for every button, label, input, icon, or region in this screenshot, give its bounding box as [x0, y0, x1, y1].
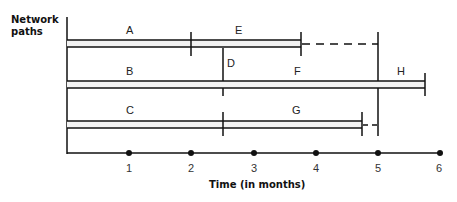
tick-label-1: 1: [126, 162, 132, 174]
tick-label-5: 5: [375, 162, 381, 174]
tick-label-2: 2: [188, 162, 194, 174]
activity-label-e: E: [235, 24, 242, 36]
y-axis-label-line1: Network: [11, 14, 59, 25]
activity-label-g: G: [292, 104, 301, 116]
path-3: [67, 112, 378, 136]
y-axis-label-line2: paths: [11, 26, 43, 37]
network-diagram: Network paths 1 2 3 4 5 6 Time (in month…: [0, 0, 457, 202]
tick-label-3: 3: [251, 162, 257, 174]
activity-label-c: C: [126, 104, 134, 116]
x-axis-label: Time (in months): [209, 179, 305, 190]
activity-label-d: D: [227, 57, 235, 69]
activity-label-a: A: [126, 24, 134, 36]
path-2: [67, 73, 425, 96]
tick-label-6: 6: [436, 162, 442, 174]
tick-label-4: 4: [313, 162, 319, 174]
activity-label-b: B: [126, 65, 133, 77]
activity-label-f: F: [294, 65, 301, 77]
activity-label-h: H: [397, 65, 405, 77]
